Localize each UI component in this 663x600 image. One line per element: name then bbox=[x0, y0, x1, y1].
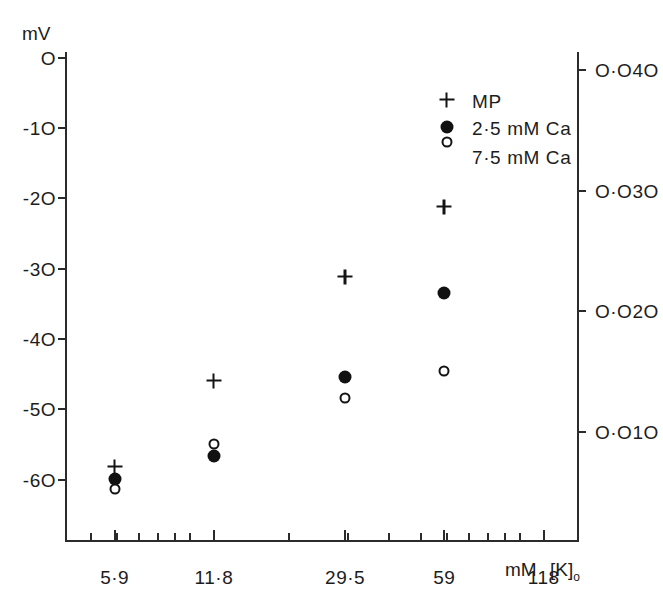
y-tick-right bbox=[577, 310, 586, 312]
x-axis-subscript: o bbox=[573, 570, 580, 584]
y-tick-label-left: -3O bbox=[6, 259, 56, 278]
filled-circle-marker bbox=[339, 370, 352, 383]
x-tick-minor bbox=[487, 533, 489, 540]
y-tick-label-right: O·O3O bbox=[595, 181, 659, 200]
scatter-chart-figure: mV O-1O-2O-3O-4O-5O-6O O·O4OO·O3OO·O2OO·… bbox=[0, 0, 663, 600]
y-tick-label-right: O·O1O bbox=[595, 423, 659, 442]
y-tick-left bbox=[58, 408, 67, 410]
x-tick-label: 5·9 bbox=[100, 568, 129, 587]
y-axis-title-left: mV bbox=[22, 24, 51, 43]
x-tick-minor bbox=[504, 533, 506, 540]
open-circle-marker bbox=[208, 439, 219, 450]
x-tick-minor bbox=[446, 533, 448, 540]
plus-marker bbox=[206, 374, 221, 389]
filled-circle-marker bbox=[438, 287, 451, 300]
filled-circle-marker-icon bbox=[441, 121, 454, 134]
plus-marker-icon bbox=[440, 93, 455, 108]
x-tick-minor bbox=[347, 533, 349, 540]
legend-label-ca75: 7·5 mM Ca bbox=[472, 148, 571, 167]
y-tick-left bbox=[58, 268, 67, 270]
x-axis-line bbox=[65, 540, 579, 542]
x-axis-title: mM [K]o bbox=[505, 560, 580, 587]
x-tick-major bbox=[213, 530, 215, 540]
y-tick-left bbox=[58, 479, 67, 481]
y-tick-left bbox=[58, 197, 67, 199]
y-tick-label-left: -2O bbox=[6, 189, 56, 208]
x-tick-minor bbox=[116, 533, 118, 540]
open-circle-marker bbox=[109, 484, 120, 495]
y-tick-left bbox=[58, 127, 67, 129]
open-circle-marker bbox=[340, 392, 351, 403]
x-axis-symbol: [K] bbox=[550, 559, 573, 580]
x-axis-unit: mM bbox=[505, 559, 537, 580]
y-tick-label-left: -4O bbox=[6, 329, 56, 348]
y-tick-left bbox=[58, 338, 67, 340]
x-tick-minor bbox=[174, 533, 176, 540]
x-tick-minor bbox=[519, 533, 521, 540]
x-tick-minor bbox=[288, 533, 290, 540]
y-tick-label-left: -1O bbox=[6, 118, 56, 137]
open-circle-marker bbox=[439, 365, 450, 376]
y-axis-right-line bbox=[577, 52, 579, 542]
x-tick-major bbox=[543, 530, 545, 540]
x-tick-minor bbox=[189, 533, 191, 540]
open-circle-marker-icon bbox=[442, 137, 453, 148]
x-tick-minor bbox=[468, 533, 470, 540]
legend-label-mp: MP bbox=[472, 92, 502, 111]
x-tick-label: 29·5 bbox=[325, 568, 365, 587]
x-tick-minor bbox=[388, 533, 390, 540]
x-tick-label: 11·8 bbox=[195, 568, 234, 587]
y-tick-label-left: O bbox=[6, 48, 56, 67]
plus-marker bbox=[437, 199, 452, 214]
x-tick-major bbox=[114, 530, 116, 540]
y-tick-right bbox=[577, 190, 586, 192]
y-tick-label-left: -5O bbox=[6, 400, 56, 419]
y-axis-left-line bbox=[65, 52, 67, 542]
y-tick-left bbox=[58, 57, 67, 59]
filled-circle-marker bbox=[207, 450, 220, 463]
y-tick-right bbox=[577, 69, 586, 71]
x-tick-label: 59 bbox=[433, 568, 455, 587]
y-tick-right bbox=[577, 431, 586, 433]
legend-label-ca25: 2·5 mM Ca bbox=[472, 119, 571, 138]
x-tick-minor bbox=[157, 533, 159, 540]
x-tick-minor bbox=[420, 533, 422, 540]
x-tick-minor bbox=[90, 533, 92, 540]
plus-marker bbox=[338, 270, 353, 285]
y-tick-label-right: O·O4O bbox=[595, 61, 659, 80]
x-tick-major bbox=[344, 530, 346, 540]
y-tick-label-right: O·O2O bbox=[595, 302, 659, 321]
x-tick-minor bbox=[138, 533, 140, 540]
x-tick-major bbox=[443, 530, 445, 540]
y-tick-label-left: -6O bbox=[6, 470, 56, 489]
